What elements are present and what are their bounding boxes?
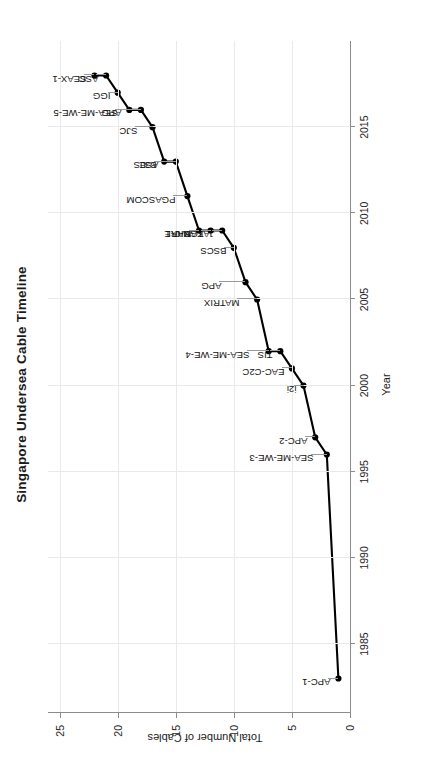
data-point-marker[interactable]: [103, 72, 109, 78]
y-axis-tick: [350, 713, 351, 718]
gridline-horizontal: [234, 41, 235, 713]
y-axis-tick-label: 10: [228, 725, 240, 757]
page-title: Singapore Undersea Cable Timeline: [14, 0, 29, 769]
series-line: [48, 41, 350, 713]
x-axis-tick-label: 1985: [358, 632, 370, 655]
x-axis-tick-label: 2010: [358, 202, 370, 225]
x-axis-tick: [350, 471, 355, 472]
y-axis-line: [48, 712, 350, 713]
gridline-horizontal: [60, 41, 61, 713]
data-point-label: SJC: [119, 125, 137, 136]
x-axis-tick: [350, 298, 355, 299]
data-point-label: APC-2: [279, 435, 307, 446]
label-leader-line: [247, 350, 269, 351]
data-point-marker[interactable]: [149, 124, 155, 130]
gridline-vertical: [48, 126, 350, 127]
y-axis-tick-label: 20: [112, 725, 124, 757]
chart-figure: Singapore Undersea Cable Timeline APC-1S…: [0, 0, 430, 769]
x-axis-tick: [350, 643, 355, 644]
y-axis-tick-label: 15: [170, 725, 182, 757]
data-point-label: PGASCOM: [127, 194, 176, 205]
x-axis-label: Year: [380, 0, 392, 769]
x-axis-tick-label: 1995: [358, 460, 370, 483]
y-axis-label: Total Number of Cables: [54, 732, 356, 744]
data-point-label: APG: [102, 108, 122, 119]
data-point-label: SEA-ME-WE-4: [185, 349, 249, 360]
y-axis-tick-label: 25: [54, 725, 66, 757]
data-point-label: BSCS: [200, 246, 226, 257]
data-point-label: SEA-ME-WE-3: [249, 453, 313, 464]
y-axis-tick: [118, 713, 119, 718]
gridline-horizontal: [118, 41, 119, 713]
data-point-label: B3JS: [134, 160, 157, 171]
gridline-vertical: [48, 385, 350, 386]
data-point-label: i2i: [286, 384, 296, 395]
x-axis-line: [350, 41, 351, 713]
y-axis-tick-label: 0: [344, 725, 356, 757]
gridline-vertical: [48, 298, 350, 299]
x-axis-tick-label: 2000: [358, 374, 370, 397]
data-point-label: APC-1: [303, 677, 331, 688]
x-axis-tick: [350, 385, 355, 386]
data-point-label: EAC-C2C: [242, 366, 284, 377]
x-axis-tick: [350, 212, 355, 213]
gridline-horizontal: [176, 41, 177, 713]
x-axis-tick-label: 2005: [358, 288, 370, 311]
x-axis-tick-label: 2015: [358, 115, 370, 138]
data-point-label: MIC-1: [165, 229, 191, 240]
x-axis-tick: [350, 557, 355, 558]
y-axis-tick: [176, 713, 177, 718]
y-axis-tick-label: 5: [286, 725, 298, 757]
rotated-figure-wrapper: Singapore Undersea Cable Timeline APC-1S…: [0, 0, 430, 769]
gridline-vertical: [48, 643, 350, 644]
gridline-vertical: [48, 212, 350, 213]
x-axis-tick: [350, 126, 355, 127]
data-point-label: MATRIX: [204, 297, 240, 308]
y-axis-tick: [234, 713, 235, 718]
label-leader-line: [237, 298, 257, 299]
data-point-marker[interactable]: [254, 296, 260, 302]
plot-area: APC-1SEA-ME-WE-3APC-2i2iEAC-C2CTISSEA-ME…: [48, 41, 350, 713]
data-point-label: IGG: [93, 91, 111, 102]
data-line: [95, 76, 339, 679]
label-leader-line: [219, 281, 245, 282]
y-axis-tick: [292, 713, 293, 718]
gridline-vertical: [48, 471, 350, 472]
data-point-marker[interactable]: [277, 348, 283, 354]
data-point-label: SEAX-1: [53, 73, 87, 84]
gridline-vertical: [48, 557, 350, 558]
y-axis-tick: [60, 713, 61, 718]
gridline-horizontal: [292, 41, 293, 713]
data-point-marker[interactable]: [184, 193, 190, 199]
x-axis-tick-label: 1990: [358, 546, 370, 569]
data-point-label: APG: [202, 280, 222, 291]
